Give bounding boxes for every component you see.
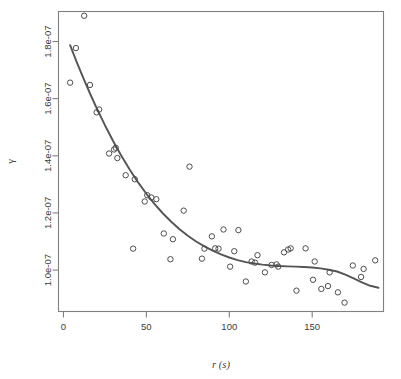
data-point (361, 266, 366, 271)
data-point (106, 151, 111, 156)
data-point (358, 274, 363, 279)
data-point (142, 199, 147, 204)
x-axis-tick-label: 100 (221, 321, 237, 332)
data-point (335, 290, 340, 295)
y-axis-tick-label: 1.2e-07 (42, 197, 53, 229)
data-point (294, 288, 299, 293)
fitted-curve (70, 45, 378, 288)
data-point (73, 45, 78, 50)
data-point (199, 256, 204, 261)
data-point (209, 234, 214, 239)
data-point (236, 227, 241, 232)
data-point (221, 227, 226, 232)
data-point (115, 155, 120, 160)
data-point (303, 246, 308, 251)
data-point (216, 246, 221, 251)
data-point (255, 253, 260, 258)
plot-frame (59, 12, 384, 312)
data-point (161, 231, 166, 236)
data-point (243, 279, 248, 284)
x-axis-tick-label: 50 (141, 321, 152, 332)
data-point (262, 270, 267, 275)
data-point (154, 197, 159, 202)
x-axis-title: r (s) (212, 359, 230, 371)
data-point (325, 283, 330, 288)
data-point (67, 80, 72, 85)
chart-canvas: 0501001501.0e-071.2e-071.4e-071.6e-071.8… (0, 0, 401, 379)
y-axis-tick-label: 1.4e-07 (42, 140, 53, 172)
data-point (373, 258, 378, 263)
data-point (350, 263, 355, 268)
data-point (187, 164, 192, 169)
variogram-plot: 0501001501.0e-071.2e-071.4e-071.6e-071.8… (0, 0, 401, 379)
x-axis-tick-label: 150 (304, 321, 320, 332)
data-point (342, 300, 347, 305)
x-axis-tick-label: 0 (61, 321, 66, 332)
data-point (170, 237, 175, 242)
data-point (227, 264, 232, 269)
data-point (181, 208, 186, 213)
y-axis-title: γ (5, 159, 16, 165)
data-point (312, 259, 317, 264)
data-point (168, 257, 173, 262)
data-point (232, 249, 237, 254)
data-point (319, 286, 324, 291)
data-point (130, 246, 135, 251)
y-axis-tick-label: 1.6e-07 (42, 83, 53, 115)
y-axis-tick-label: 1.8e-07 (42, 25, 53, 57)
data-point (310, 277, 315, 282)
y-axis-tick-label: 1.0e-07 (42, 254, 53, 286)
data-point (123, 173, 128, 178)
data-point (82, 13, 87, 18)
data-point (87, 82, 92, 87)
